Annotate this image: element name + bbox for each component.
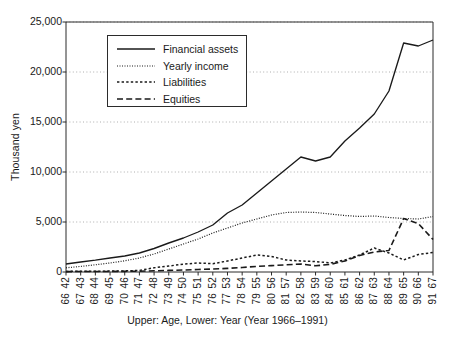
x-tick-label-year: 79 — [252, 293, 262, 305]
x-tick-label-year: 71 — [134, 293, 144, 305]
legend-swatch-solid-icon — [116, 42, 156, 56]
x-tick-label-year: 85 — [340, 293, 350, 305]
series-line-equities — [66, 219, 433, 272]
x-tick-label-age: 60 — [325, 277, 335, 289]
legend-item-equities[interactable]: Equities — [108, 90, 248, 108]
x-tick-label-age: 44 — [90, 277, 100, 289]
legend-item-yearly-income[interactable]: Yearly income — [108, 57, 248, 75]
x-tick-label-age: 59 — [311, 277, 321, 289]
x-tick-label-age: 51 — [193, 277, 203, 289]
x-tick-label-year: 86 — [355, 293, 365, 305]
x-tick-label-age: 63 — [369, 277, 379, 289]
x-tick-label-year: 91 — [428, 293, 438, 305]
x-tick-label-year: 90 — [413, 293, 423, 305]
x-tick-label-age: 56 — [267, 277, 277, 289]
chart-legend: Financial assetsYearly incomeLiabilities… — [107, 35, 247, 107]
legend-swatch-dashed-icon — [116, 92, 156, 106]
legend-label: Liabilities — [163, 76, 206, 88]
x-tick-label-year: 77 — [222, 293, 232, 305]
legend-swatch-fine-dotted-icon — [116, 59, 156, 73]
series-line-yearly-income — [66, 212, 433, 268]
x-tick-label-year: 72 — [149, 293, 159, 305]
x-tick-label-age: 65 — [399, 277, 409, 289]
x-tick-label-year: 83 — [311, 293, 321, 305]
x-tick-label-age: 53 — [222, 277, 232, 289]
x-tick-label-age: 64 — [384, 277, 394, 289]
legend-item-financial-assets[interactable]: Financial assets — [108, 40, 248, 58]
x-axis-caption: Upper: Age, Lower: Year (Year 1966–1991) — [0, 314, 455, 326]
x-tick-label-year: 70 — [120, 293, 130, 305]
x-tick-label-age: 62 — [355, 277, 365, 289]
x-tick-label-year: 81 — [281, 293, 291, 305]
legend-swatch-coarse-dotted-icon — [116, 75, 156, 89]
x-tick-label-year: 78 — [237, 293, 247, 305]
x-tick-label-year: 75 — [193, 293, 203, 305]
x-tick-label-age: 42 — [61, 277, 71, 289]
legend-label: Financial assets — [163, 43, 238, 55]
x-tick-label-age: 46 — [120, 277, 130, 289]
x-tick-label-year: 76 — [208, 293, 218, 305]
x-tick-label-year: 87 — [369, 293, 379, 305]
legend-item-liabilities[interactable]: Liabilities — [108, 73, 248, 91]
x-tick-label-age: 57 — [281, 277, 291, 289]
x-tick-label-age: 50 — [178, 277, 188, 289]
x-tick-label-age: 58 — [296, 277, 306, 289]
x-tick-label-age: 45 — [105, 277, 115, 289]
x-tick-label-age: 47 — [134, 277, 144, 289]
x-tick-label-year: 67 — [76, 293, 86, 305]
legend-label: Yearly income — [163, 60, 229, 72]
x-tick-label-year: 73 — [164, 293, 174, 305]
x-tick-label-year: 88 — [384, 293, 394, 305]
x-tick-label-age: 43 — [76, 277, 86, 289]
x-tick-label-age: 54 — [237, 277, 247, 289]
x-tick-label-year: 68 — [90, 293, 100, 305]
x-tick-label-age: 52 — [208, 277, 218, 289]
x-tick-label-age: 67 — [428, 277, 438, 289]
x-tick-label-age: 49 — [164, 277, 174, 289]
x-tick-label-age: 48 — [149, 277, 159, 289]
x-tick-label-age: 55 — [252, 277, 262, 289]
x-tick-label-year: 74 — [178, 293, 188, 305]
x-tick-label-year: 82 — [296, 293, 306, 305]
chart-figure: Thousand yen 05,00010,00015,00020,00025,… — [0, 0, 455, 339]
legend-label: Equities — [163, 93, 200, 105]
x-tick-label-year: 69 — [105, 293, 115, 305]
x-tick-label-age: 61 — [340, 277, 350, 289]
x-tick-label-year: 89 — [399, 293, 409, 305]
x-tick-label-year: 80 — [267, 293, 277, 305]
x-tick-label-age: 66 — [413, 277, 423, 289]
x-tick-label-year: 84 — [325, 293, 335, 305]
x-tick-label-year: 66 — [61, 293, 71, 305]
